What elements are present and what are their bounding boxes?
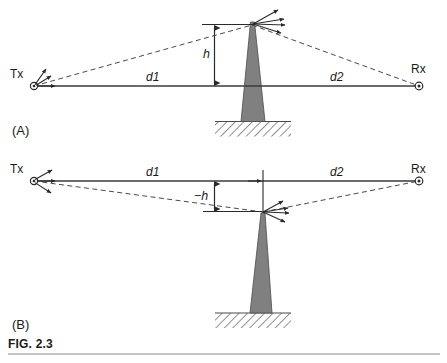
- d1-label-a: d1: [146, 71, 159, 83]
- mast-antenna-a: [253, 10, 285, 33]
- d2-label-a: d2: [330, 71, 343, 83]
- d1-label-b: d1: [146, 166, 159, 178]
- figure-caption-label: FIG. 2.3: [8, 338, 53, 350]
- rx-antenna-b: [415, 177, 423, 185]
- ray-tip-rx-b: [263, 181, 419, 212]
- tx-label-b: Tx: [10, 163, 23, 175]
- mast-a: [241, 22, 265, 122]
- tx-antenna-b: [30, 170, 55, 193]
- ground-hatch-b: [215, 313, 291, 328]
- ray-tx-tip-b: [34, 181, 263, 212]
- rx-label-b: Rx: [411, 163, 426, 175]
- figure-2-3: Tx Rx d1 d2 h (A) Tx Rx d1 d2 −h (B) FIG…: [0, 0, 447, 363]
- ray-tx-tip-a: [34, 25, 252, 86]
- rx-label-a: Rx: [411, 63, 426, 75]
- panel-label-a: (A): [12, 124, 29, 137]
- diagram-canvas: [0, 0, 447, 363]
- rx-antenna-a: [415, 82, 423, 90]
- panel-a-graphics: [30, 10, 422, 137]
- ground-hatch-a: [215, 122, 291, 137]
- h-label-a: h: [203, 48, 210, 61]
- mast-antenna-b: [263, 201, 289, 222]
- d2-label-b: d2: [330, 166, 343, 178]
- panel-b-graphics: [30, 170, 422, 328]
- h-label-b: −h: [194, 190, 208, 203]
- tx-label-a: Tx: [10, 68, 23, 80]
- mast-b: [250, 213, 272, 313]
- panel-label-b: (B): [12, 318, 29, 331]
- tx-antenna-a: [30, 69, 55, 90]
